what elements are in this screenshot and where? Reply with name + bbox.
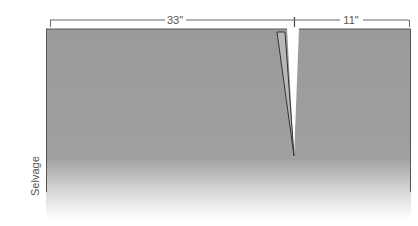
dimension-33: 33" bbox=[50, 14, 295, 27]
dimension-label-33: 33" bbox=[167, 14, 183, 26]
selvage-label: Selvage bbox=[29, 156, 41, 196]
fabric-body bbox=[46, 29, 411, 219]
dimension-11: 11" bbox=[294, 14, 410, 27]
fabric-panel bbox=[46, 29, 411, 219]
dimension-label-11: 11" bbox=[343, 14, 358, 26]
fabric-cutting-diagram: 33" 11" Selvage bbox=[0, 0, 418, 226]
